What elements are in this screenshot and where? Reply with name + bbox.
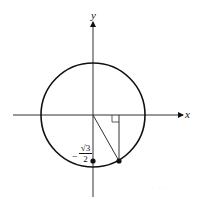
label-denominator: 2 <box>79 154 92 164</box>
right-angle-marker <box>112 115 119 122</box>
y-axis-label: y <box>91 10 96 21</box>
label-minus-sign: − <box>72 151 78 162</box>
label-fraction: √3 2 <box>79 143 92 164</box>
label-numerator: √3 <box>79 143 92 154</box>
point-on-circle <box>116 158 121 163</box>
x-axis-label: x <box>185 109 190 120</box>
watermark-text: · · · · · · · · · <box>110 183 169 192</box>
unit-circle-diagram <box>0 0 207 210</box>
